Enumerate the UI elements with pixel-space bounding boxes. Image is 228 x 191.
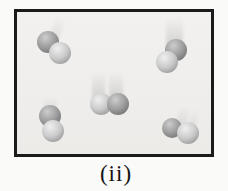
figure-caption: (ii) <box>14 161 218 187</box>
figure: (ii) <box>0 0 228 191</box>
molecule-box <box>14 9 214 157</box>
